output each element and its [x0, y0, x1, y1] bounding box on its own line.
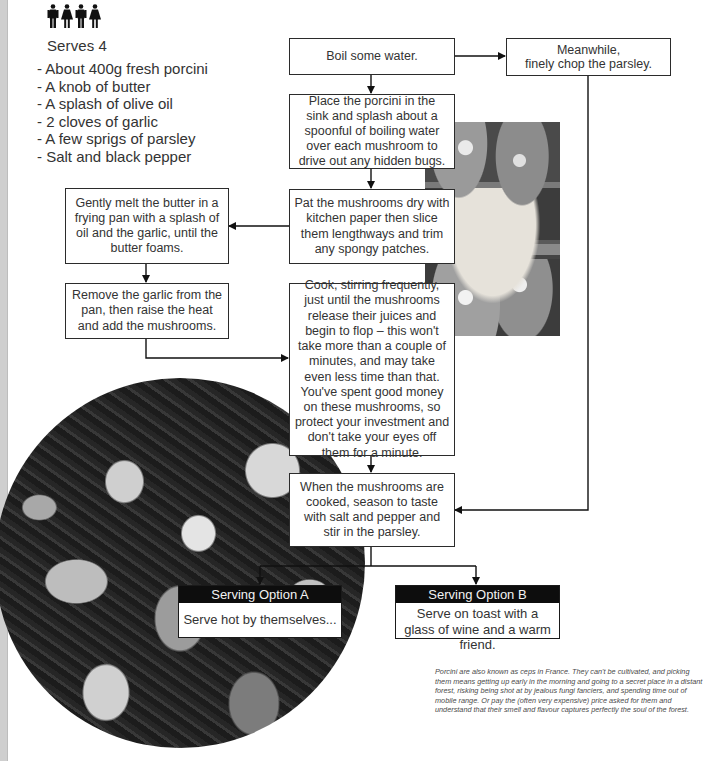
ingredients-list: About 400g fresh porcini A knob of butte… — [37, 60, 208, 165]
step-text: Remove the garlic from the pan, then rai… — [70, 288, 224, 334]
man-icon — [47, 4, 59, 28]
step-text: When the mushrooms are cooked, season to… — [300, 480, 444, 541]
option-text: Serve hot by themselves... — [179, 603, 341, 634]
serving-option-b: Serving Option B Serve on toast with a g… — [395, 585, 560, 639]
ingredient-item: A few sprigs of parsley — [37, 130, 208, 148]
step-text: Cook, stirring frequently, just until th… — [294, 278, 450, 460]
serving-option-a: Serving Option A Serve hot by themselves… — [178, 585, 342, 638]
option-title: Serving Option B — [396, 586, 559, 603]
step-place-porcini: Place the porcini in the sink and splash… — [289, 94, 455, 169]
step-text: Boil some water. — [326, 49, 418, 64]
serves-icons — [47, 4, 101, 28]
step-melt-butter: Gently melt the butter in a frying pan w… — [65, 188, 229, 264]
step-text: Gently melt the butter in a frying pan w… — [70, 196, 224, 257]
serves-label: Serves 4 — [47, 37, 107, 54]
page-edge — [0, 0, 8, 761]
ingredient-item: A knob of butter — [37, 78, 208, 96]
step-text: Place the porcini in the sink and splash… — [296, 94, 448, 170]
option-text: Serve on toast with a glass of wine and … — [396, 603, 559, 659]
step-boil-water: Boil some water. — [289, 38, 455, 75]
step-chop-parsley: Meanwhile, finely chop the parsley. — [506, 38, 671, 76]
woman-icon — [89, 4, 101, 28]
step-text: Meanwhile, finely chop the parsley. — [525, 43, 652, 72]
man-icon — [75, 4, 87, 28]
ingredient-item: 2 cloves of garlic — [37, 113, 208, 131]
step-remove-garlic: Remove the garlic from the pan, then rai… — [65, 283, 229, 339]
step-cook-mushrooms: Cook, stirring frequently, just until th… — [289, 283, 455, 456]
step-pat-dry: Pat the mushrooms dry with kitchen paper… — [289, 189, 455, 264]
ingredient-item: Salt and black pepper — [37, 148, 208, 166]
step-season: When the mushrooms are cooked, season to… — [289, 473, 455, 547]
ingredient-item: About 400g fresh porcini — [37, 60, 208, 78]
ingredient-item: A splash of olive oil — [37, 95, 208, 113]
porcini-note: Porcini are also known as ceps in France… — [435, 667, 703, 715]
option-title: Serving Option A — [179, 586, 341, 603]
step-text: Pat the mushrooms dry with kitchen paper… — [294, 196, 450, 257]
woman-icon — [61, 4, 73, 28]
